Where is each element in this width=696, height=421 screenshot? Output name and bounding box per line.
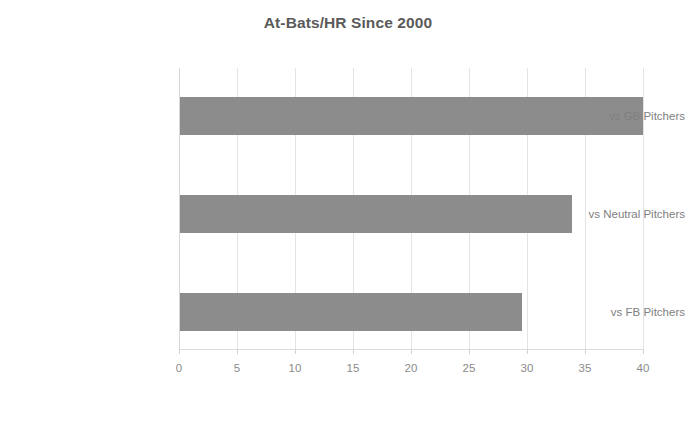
x-tick-label: 30 (507, 362, 547, 374)
x-tick-mark (469, 349, 470, 354)
x-tick-label: 10 (275, 362, 315, 374)
y-axis-line (179, 68, 180, 349)
x-tick-label: 5 (217, 362, 257, 374)
x-tick-label: 35 (565, 362, 605, 374)
x-tick-label: 40 (623, 362, 663, 374)
bar-vs-neutral-pitchers[interactable] (179, 195, 572, 233)
bar-vs-fb-pitchers[interactable] (179, 293, 522, 331)
x-tick-mark (353, 349, 354, 354)
x-tick-mark (643, 349, 644, 354)
x-tick-mark (295, 349, 296, 354)
x-tick-label: 0 (159, 362, 199, 374)
y-axis-label-vs-gb-pitchers: vs GB Pitchers (528, 110, 696, 122)
y-axis-label-vs-neutral-pitchers: vs Neutral Pitchers (528, 208, 696, 220)
chart-container: At-Bats/HR Since 2000 vs GB Pitchers vs … (0, 0, 696, 421)
x-tick-mark (411, 349, 412, 354)
y-axis-label-vs-fb-pitchers: vs FB Pitchers (528, 306, 696, 318)
x-tick-mark (179, 349, 180, 354)
x-tick-mark (237, 349, 238, 354)
x-tick-mark (585, 349, 586, 354)
x-tick-mark (527, 349, 528, 354)
chart-title: At-Bats/HR Since 2000 (0, 14, 696, 32)
x-tick-label: 25 (449, 362, 489, 374)
x-tick-label: 20 (391, 362, 431, 374)
x-tick-label: 15 (333, 362, 373, 374)
